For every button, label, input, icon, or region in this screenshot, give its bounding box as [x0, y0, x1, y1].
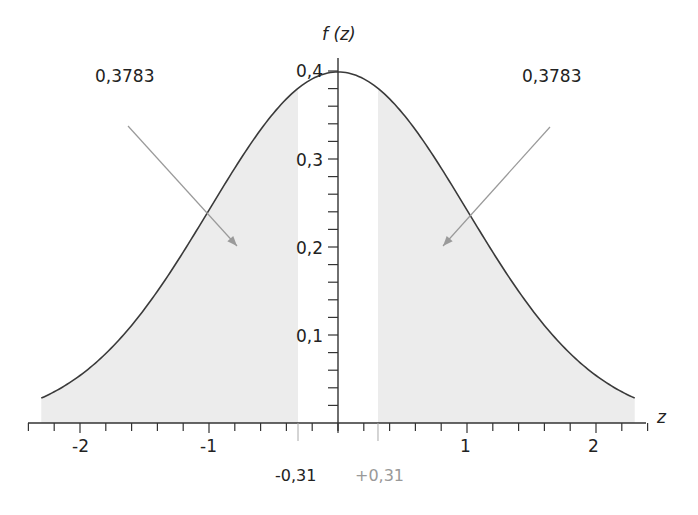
marker-label-pos: +0,31: [355, 466, 404, 485]
x-tick-label: 1: [460, 436, 471, 456]
x-tick-label: 2: [588, 436, 599, 456]
arrow-line: [128, 126, 237, 246]
arrow-line: [443, 127, 550, 246]
y-tick-label: 0,2: [296, 238, 323, 258]
annotation-left: 0,3783: [95, 66, 154, 86]
x-tick-labels: -2 -1 1 2: [72, 436, 599, 456]
y-axis-label: f (z): [322, 24, 356, 44]
y-tick-label: 0,1: [296, 326, 323, 346]
shaded-region: [41, 88, 298, 423]
shaded-region: [378, 88, 635, 423]
x-axis-label: z: [656, 407, 667, 427]
y-tick-labels: 0,4 0,3 0,2 0,1: [296, 61, 323, 346]
x-tick-label: -1: [200, 436, 217, 456]
x-tick-label: -2: [72, 436, 89, 456]
annotation-right: 0,3783: [522, 66, 581, 86]
normal-distribution-chart: f (z) z 0,3783 0,3783 -0,31 +0,31 0,4 0,…: [0, 0, 698, 515]
y-tick-label: 0,4: [296, 61, 323, 81]
annotation-arrows: [128, 126, 550, 246]
y-tick-label: 0,3: [296, 150, 323, 170]
marker-label-neg: -0,31: [275, 466, 316, 485]
